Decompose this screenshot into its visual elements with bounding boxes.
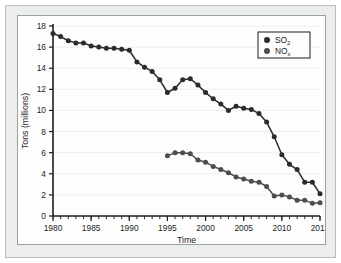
y-tick-label: 14 <box>37 63 47 73</box>
data-point <box>157 77 162 82</box>
data-point <box>142 65 147 70</box>
x-tick-label: 1980 <box>44 223 63 233</box>
data-point <box>264 120 269 125</box>
data-point <box>249 107 254 112</box>
chart-legend: SO2NOx <box>258 32 310 58</box>
y-tick-label: 16 <box>37 42 47 52</box>
data-point <box>180 77 185 82</box>
y-tick-label: 8 <box>41 127 46 137</box>
data-point <box>295 167 300 172</box>
y-axis-tick-labels: 024681012141618 <box>37 21 47 221</box>
data-point <box>226 170 231 175</box>
emissions-line-chart: 024681012141618 198019851990199520002005… <box>18 16 325 244</box>
data-point <box>203 90 208 95</box>
data-point <box>218 102 223 107</box>
figure-frame: 024681012141618 198019851990199520002005… <box>5 5 336 258</box>
data-point <box>112 46 117 51</box>
data-point <box>318 191 323 196</box>
y-axis-title: Tons (millions) <box>20 93 30 149</box>
data-point <box>66 38 71 43</box>
chart-screenshot: 024681012141618 198019851990199520002005… <box>0 0 341 263</box>
y-tick-label: 4 <box>41 169 46 179</box>
data-point <box>241 106 246 111</box>
data-point <box>188 151 193 156</box>
x-tick-label: 2010 <box>273 223 292 233</box>
data-point <box>58 34 63 39</box>
data-point <box>272 134 277 139</box>
data-point <box>119 47 124 52</box>
x-axis-title: Time <box>177 235 196 244</box>
data-point <box>96 45 101 50</box>
data-point <box>279 152 284 157</box>
data-point <box>241 177 246 182</box>
y-tick-label: 0 <box>41 211 46 221</box>
data-point <box>180 150 185 155</box>
data-point <box>256 180 261 185</box>
axis-titles: TimeTons (millions) <box>20 93 196 244</box>
data-point <box>218 167 223 172</box>
data-point <box>310 180 315 185</box>
data-point <box>310 201 315 206</box>
data-point <box>302 198 307 203</box>
data-point <box>272 193 277 198</box>
data-point <box>318 200 323 205</box>
data-point <box>51 31 56 36</box>
y-tick-label: 2 <box>41 190 46 200</box>
data-point <box>173 86 178 91</box>
data-point <box>249 179 254 184</box>
data-point <box>134 59 139 64</box>
data-point <box>195 158 200 163</box>
data-point <box>165 153 170 158</box>
data-point <box>211 96 216 101</box>
x-tick-label: 1995 <box>158 223 177 233</box>
data-point <box>264 184 269 189</box>
x-tick-label: 1985 <box>82 223 101 233</box>
data-point <box>81 40 86 45</box>
data-point <box>234 174 239 179</box>
data-point <box>295 198 300 203</box>
data-point <box>226 108 231 113</box>
data-point <box>165 90 170 95</box>
data-point <box>73 40 78 45</box>
y-tick-label: 10 <box>37 105 47 115</box>
x-tick-label: 1990 <box>120 223 139 233</box>
x-tick-label: 2015 <box>311 223 325 233</box>
data-point <box>279 192 284 197</box>
data-point <box>203 160 208 165</box>
series-nox <box>165 150 323 206</box>
data-point <box>127 48 132 53</box>
data-point <box>234 104 239 109</box>
data-point <box>104 46 109 51</box>
data-point <box>89 44 94 49</box>
data-point <box>195 83 200 88</box>
data-point <box>150 69 155 74</box>
data-point <box>302 180 307 185</box>
y-tick-label: 18 <box>37 21 47 31</box>
legend-marker-so2 <box>264 37 270 43</box>
y-tick-label: 12 <box>37 84 47 94</box>
x-tick-label: 2005 <box>234 223 253 233</box>
chart-panel: 024681012141618 198019851990199520002005… <box>17 15 326 245</box>
data-point <box>287 195 292 200</box>
data-point <box>287 162 292 167</box>
x-tick-label: 2000 <box>196 223 215 233</box>
x-axis-tick-labels: 19801985199019952000200520102015 <box>44 223 325 233</box>
data-point <box>256 111 261 116</box>
data-point <box>211 164 216 169</box>
data-point <box>188 76 193 81</box>
y-tick-label: 6 <box>41 148 46 158</box>
legend-marker-nox <box>264 48 270 54</box>
data-point <box>173 150 178 155</box>
